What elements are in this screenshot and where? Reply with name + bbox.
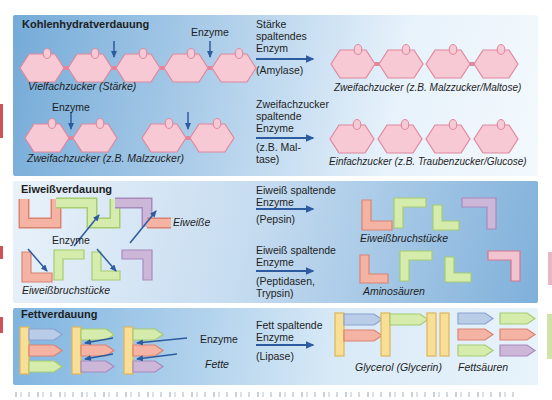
enzyme-text-line: Fett spaltende — [256, 319, 323, 331]
sugar-unit-knob — [235, 49, 243, 59]
product-label-amino-acids: Aminosäuren — [363, 285, 425, 297]
sugar-unit-hexagon — [331, 50, 375, 78]
sugar-unit-knob — [187, 49, 195, 59]
enzyme-text-line: Enzyme — [256, 331, 294, 343]
protein-piece — [362, 200, 392, 230]
fat-molecules — [20, 327, 163, 374]
fragments-label: Eiweißbruchstücke — [22, 284, 110, 296]
fatty-acid-arrow — [390, 314, 428, 325]
sugar-unit-knob — [48, 119, 56, 129]
page-edge-sliver — [0, 317, 3, 333]
enzyme-name-peptidases: (Peptidasen, — [256, 275, 315, 287]
sugar-unit-hexagon — [20, 54, 64, 82]
glycerol-bar — [335, 313, 344, 356]
enzyme-name-peptidases: Trypsin) — [256, 287, 294, 299]
sugar-unit-knob — [497, 45, 505, 55]
fatty-acid-arrow — [458, 313, 493, 324]
maltose-product-molecules — [331, 45, 518, 79]
fatty-acid-arrow — [29, 329, 62, 340]
substrate-label-maltose: Zweifachzucker (z.B. Malzzucker) — [27, 152, 184, 164]
protein-piece — [54, 250, 84, 280]
glycerol-bar — [381, 313, 390, 356]
fatty-acid-arrow — [81, 361, 114, 372]
enzyme-text-line: Enzyme — [256, 256, 294, 268]
sugar-unit-hexagon — [212, 54, 256, 82]
product-label-fragments: Eiweißbruchstücke — [360, 232, 448, 244]
sugar-unit-hexagon — [142, 124, 186, 152]
starch-molecule-chain — [20, 49, 256, 83]
protein-piece — [433, 205, 459, 230]
enzyme-text-line: spaltende — [256, 110, 302, 122]
enzyme-name-amylase: (Amylase) — [256, 64, 303, 76]
protein-fragments-substrate — [22, 250, 152, 282]
enzyme-name-maltase: (z.B. Mal- — [256, 141, 301, 153]
fatty-acid-arrow — [344, 314, 382, 325]
sugar-unit-hexagon — [426, 125, 470, 153]
sugar-unit-knob — [139, 49, 147, 59]
product-label-fatty-acids: Fettsäuren — [458, 361, 508, 373]
sugar-unit-knob — [43, 49, 51, 59]
product-label-maltose: Zweifachzucker (z.B. Malzzucker/Maltose) — [334, 82, 521, 94]
sugar-unit-hexagon — [68, 54, 112, 82]
sugar-unit-knob — [497, 120, 505, 130]
enzyme-text-line: Enzyme — [256, 196, 294, 208]
maltose-substrate-molecules — [25, 119, 234, 153]
enzyme-text-line: Enzyme — [256, 122, 294, 134]
protein-piece — [462, 198, 496, 229]
product-label-glucose: Einfachzucker (z.B. Traubenzucker/Glucos… — [329, 156, 527, 168]
sugar-unit-knob — [213, 119, 221, 129]
fatty-acid-arrow — [458, 329, 493, 340]
page-edge-sliver — [0, 104, 3, 138]
fatty-acid-arrow — [500, 313, 535, 324]
page-edge-sliver — [547, 314, 552, 359]
amino-acid-piece — [400, 251, 432, 281]
glucose-product-molecules — [330, 120, 518, 154]
section-title-carbohydrates: Kohlenhydratverdauung — [22, 18, 149, 30]
protein-segment — [56, 199, 115, 223]
substrate-label-fats: Fette — [205, 358, 229, 370]
sugar-unit-hexagon — [73, 124, 117, 152]
fatty-acid-arrow — [344, 330, 382, 341]
sugar-unit-hexagon — [474, 50, 518, 78]
sugar-unit-hexagon — [378, 125, 422, 153]
enzyme-name-pepsin: (Pepsin) — [256, 213, 295, 225]
fatty-acid-arrow — [500, 329, 535, 340]
page-edge-sliver — [548, 252, 552, 285]
sugar-unit-knob — [402, 45, 410, 55]
amino-acid-piece — [360, 255, 388, 283]
amino-acid-molecules — [360, 251, 520, 283]
sugar-unit-knob — [91, 49, 99, 59]
glycerol-bar — [124, 327, 133, 374]
product-label-glycerol: Glycerol (Glycerin) — [355, 361, 442, 373]
fatty-acid-arrow — [133, 345, 163, 356]
enzyme-label: Enzyme — [52, 234, 90, 246]
enzyme-label: Enzyme — [200, 333, 238, 345]
cropped-caption-remnant — [15, 392, 520, 397]
enzyme-text-line: Stärke — [256, 18, 286, 30]
substrate-label-starch: Vielfachzucker (Stärke) — [28, 80, 136, 92]
glycerol-bar — [72, 327, 81, 374]
glycerol-bar — [440, 313, 449, 356]
sugar-unit-hexagon — [116, 54, 160, 82]
glycerol-product-molecules — [335, 313, 449, 356]
fatty-acid-arrow — [133, 361, 163, 372]
protein-piece — [394, 198, 426, 228]
page-edge-sliver — [0, 246, 3, 259]
sugar-unit-knob — [401, 120, 409, 130]
enzyme-name-maltase: tase) — [256, 153, 279, 165]
sugar-unit-hexagon — [426, 50, 470, 78]
protein-piece — [22, 252, 52, 282]
enzyme-text-line: Eiweiß spaltende — [256, 184, 336, 196]
sugar-unit-hexagon — [379, 50, 423, 78]
enzyme-label: Enzyme — [191, 26, 229, 38]
fatty-acid-arrow — [133, 329, 163, 340]
fatty-acid-arrow — [29, 345, 62, 356]
sugar-unit-knob — [449, 45, 457, 55]
sugar-unit-hexagon — [25, 124, 69, 152]
sugar-unit-knob — [449, 120, 457, 130]
sugar-unit-hexagon — [190, 124, 234, 152]
sugar-unit-knob — [165, 119, 173, 129]
protein-molecule-chain — [24, 199, 171, 227]
fatty-acid-molecules — [458, 313, 535, 356]
section-title-fat: Fettverdauung — [21, 308, 97, 320]
